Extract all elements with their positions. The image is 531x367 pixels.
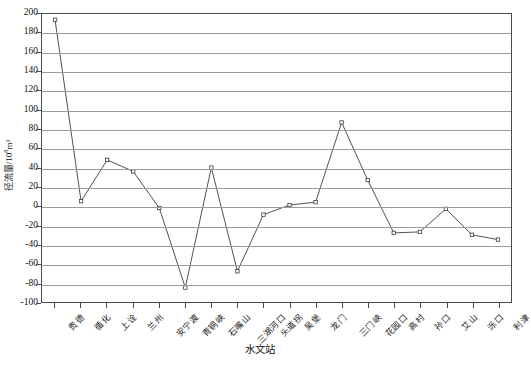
x-axis-tick-mark	[316, 303, 317, 308]
data-point-marker	[131, 170, 134, 173]
x-axis-category-label: 上诠	[118, 311, 139, 332]
x-axis-category-label: 泺口	[484, 311, 505, 332]
x-axis-category-label: 龙门	[327, 311, 348, 332]
y-axis-tick-label: -20	[12, 221, 38, 231]
x-axis-tick-mark	[106, 303, 107, 308]
x-axis-tick-mark	[368, 303, 369, 308]
y-axis-tick-label: 180	[12, 27, 38, 37]
data-point-marker	[236, 270, 239, 273]
y-axis-tick-mark	[36, 148, 41, 149]
y-axis-tick-mark	[36, 168, 41, 169]
x-axis-category-label: 利津	[510, 311, 531, 332]
x-axis-tick-mark	[133, 303, 134, 308]
y-axis-tick-label: 140	[12, 66, 38, 76]
data-point-marker	[496, 238, 499, 241]
gridline	[42, 207, 511, 208]
x-axis-tick-mark	[447, 303, 448, 308]
gridline	[42, 111, 511, 112]
y-axis-tick-label: 100	[12, 105, 38, 115]
y-axis-tick-mark	[36, 110, 41, 111]
gridline	[42, 188, 511, 189]
data-point-marker	[366, 178, 369, 181]
gridline	[42, 246, 511, 247]
x-axis-category-label: 石嘴山	[225, 311, 253, 339]
y-axis-tick-label: -60	[12, 259, 38, 269]
x-axis-category-label: 艾山	[458, 311, 479, 332]
y-axis-tick-mark	[36, 52, 41, 53]
y-axis-tick-label: 40	[12, 163, 38, 173]
gridline	[42, 169, 511, 170]
series-line	[55, 20, 498, 288]
data-point-marker	[184, 286, 187, 289]
x-axis-tick-mark	[499, 303, 500, 308]
x-axis-tick-mark	[473, 303, 474, 308]
y-axis-tick-label: 120	[12, 85, 38, 95]
y-axis-tick-label: -40	[12, 240, 38, 250]
y-axis-tick-label: -100	[12, 298, 38, 308]
x-axis-category-label: 青铜峡	[199, 311, 227, 339]
data-point-marker	[392, 231, 395, 234]
x-axis-category-label: 孙口	[432, 311, 453, 332]
x-axis-category-label: 高村	[406, 311, 427, 332]
gridline	[42, 227, 511, 228]
y-axis-tick-label: 20	[12, 182, 38, 192]
y-axis-tick-label: 160	[12, 47, 38, 57]
data-point-marker	[262, 213, 265, 216]
y-axis-tick-mark	[36, 303, 41, 304]
y-axis-tick-label: 80	[12, 124, 38, 134]
gridline	[42, 33, 511, 34]
x-axis-tick-mark	[211, 303, 212, 308]
data-point-marker	[340, 121, 343, 124]
data-point-marker	[53, 18, 56, 21]
data-point-marker	[105, 158, 108, 161]
x-axis-category-label: 吴堡	[301, 311, 322, 332]
data-point-marker	[314, 200, 317, 203]
y-axis-tick-label: 0	[12, 201, 38, 211]
gridline	[42, 265, 511, 266]
gridline	[42, 53, 511, 54]
y-axis-tick-label: 200	[12, 8, 38, 18]
x-axis-tick-mark	[159, 303, 160, 308]
y-axis-tick-mark	[36, 129, 41, 130]
gridline	[42, 130, 511, 131]
series-polyline-group	[42, 14, 511, 302]
x-axis-tick-mark	[80, 303, 81, 308]
gridline	[42, 149, 511, 150]
x-axis-tick-mark	[185, 303, 186, 308]
plot-area	[41, 13, 512, 303]
y-axis-tick-label: -80	[12, 279, 38, 289]
x-axis-tick-mark	[263, 303, 264, 308]
y-axis-tick-mark	[36, 264, 41, 265]
x-axis-category-label: 贵德	[65, 311, 86, 332]
y-axis-tick-mark	[36, 90, 41, 91]
y-axis-tick-mark	[36, 245, 41, 246]
gridline	[42, 72, 511, 73]
x-axis-tick-mark	[342, 303, 343, 308]
x-axis-tick-mark	[54, 303, 55, 308]
gridline	[42, 91, 511, 92]
y-axis-tick-label: 60	[12, 143, 38, 153]
x-axis-tick-mark	[394, 303, 395, 308]
y-axis-tick-mark	[36, 206, 41, 207]
y-axis-tick-mark	[36, 284, 41, 285]
y-axis-tick-mark	[36, 187, 41, 188]
data-point-marker	[470, 233, 473, 236]
gridline	[42, 285, 511, 286]
y-axis-tick-mark	[36, 32, 41, 33]
y-axis-tick-mark	[36, 13, 41, 14]
data-point-marker	[418, 230, 421, 233]
x-axis-category-label: 兰州	[144, 311, 165, 332]
x-axis-category-label: 三门峡	[356, 311, 384, 339]
y-axis-tick-labels: 200180160140120100806040200-20-40-60-80-…	[12, 0, 38, 367]
x-axis-category-label: 安宁渡	[173, 311, 201, 339]
x-axis-tick-mark	[290, 303, 291, 308]
x-axis-category-label: 循化	[92, 311, 113, 332]
x-axis-tick-mark	[420, 303, 421, 308]
data-point-marker	[79, 200, 82, 203]
y-axis-tick-mark	[36, 71, 41, 72]
y-axis-tick-mark	[36, 226, 41, 227]
x-axis-tick-mark	[237, 303, 238, 308]
